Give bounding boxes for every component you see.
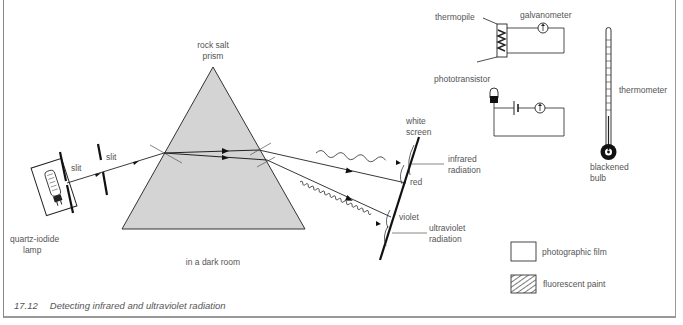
diagram: slit slit rock salt prism white screen i…: [0, 0, 683, 325]
phototransistor-circuit: [490, 88, 564, 136]
legend-label-film: photographic film: [542, 247, 607, 257]
fluorescent-paint-swatch: [511, 275, 536, 293]
slit-2-label: slit: [106, 152, 117, 162]
phototransistor-label: phototransistor: [434, 74, 490, 84]
ultraviolet-wave: [299, 181, 371, 215]
legend: photographic film fluorescent paint: [511, 242, 607, 293]
figure-caption: 17.12Detecting infrared and ultraviolet …: [14, 300, 226, 311]
slit-1-label: slit: [71, 163, 82, 173]
dark-room-label: in a dark room: [186, 257, 240, 267]
ultraviolet-label-2: radiation: [429, 234, 462, 244]
infrared-wave: [316, 150, 386, 163]
infrared-label-2: radiation: [448, 165, 481, 175]
lamp-label-1: quartz-iodide: [10, 234, 59, 244]
screen-label-1: white: [405, 116, 426, 126]
figure-caption-text: Detecting infrared and ultraviolet radia…: [50, 300, 226, 311]
screen-label-2: screen: [406, 127, 432, 137]
prism-label-2: prism: [203, 51, 224, 61]
infrared-label-1: infrared: [448, 154, 477, 164]
thermometer-label: thermometer: [619, 85, 667, 95]
ultraviolet-label-1: ultraviolet: [429, 223, 466, 233]
galvanometer-label: galvanometer: [520, 10, 572, 20]
figure-number: 17.12: [14, 300, 38, 311]
violet-label: violet: [399, 212, 419, 222]
rock-salt-prism: [122, 67, 305, 229]
white-screen: [380, 137, 419, 260]
prism-label-1: rock salt: [197, 40, 229, 50]
thermometer: [601, 28, 617, 161]
bulb-label-1: blackened: [590, 162, 629, 172]
photographic-film-swatch: [511, 242, 536, 261]
red-label: red: [410, 177, 423, 187]
thermopile-circuit: [477, 18, 564, 62]
legend-label-paint: fluorescent paint: [543, 279, 606, 289]
thermopile-label: thermopile: [435, 12, 475, 22]
bulb-label-2: bulb: [590, 173, 606, 183]
lamp-label-2: lamp: [23, 245, 42, 255]
